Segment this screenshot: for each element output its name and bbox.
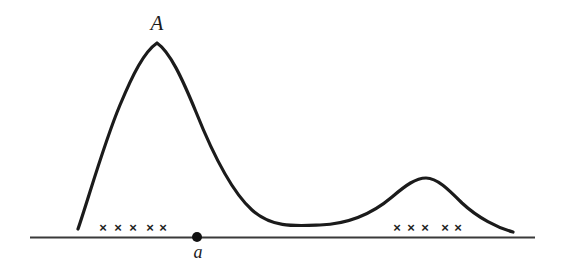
cross-mark-right-2: × xyxy=(407,221,415,234)
cross-mark-left-3: × xyxy=(129,221,137,234)
figure-drawing xyxy=(0,0,566,276)
cross-mark-left-5: × xyxy=(159,221,167,234)
cross-mark-left-2: × xyxy=(114,221,122,234)
cross-mark-right-1: × xyxy=(393,221,401,234)
point-label-a: a xyxy=(194,243,203,261)
cross-mark-right-4: × xyxy=(441,221,449,234)
cross-mark-right-3: × xyxy=(421,221,429,234)
cross-mark-left-1: × xyxy=(99,221,107,234)
peak-label-A: A xyxy=(151,13,164,34)
point-a-dot xyxy=(192,232,202,242)
bimodal-curve xyxy=(78,43,513,232)
figure-canvas: A a ×××××××××× xyxy=(0,0,566,276)
cross-mark-right-5: × xyxy=(454,221,462,234)
cross-mark-left-4: × xyxy=(146,221,154,234)
